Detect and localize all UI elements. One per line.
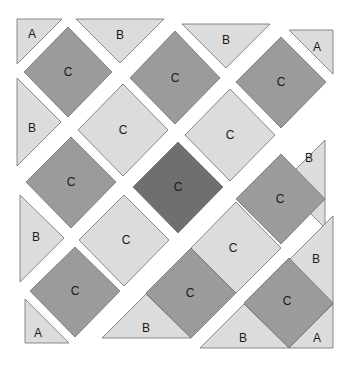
piece-label: C bbox=[64, 65, 73, 79]
piece-label: B bbox=[305, 151, 313, 165]
piece-label: B bbox=[239, 331, 247, 345]
piece-label: C bbox=[67, 175, 76, 189]
piece-label: B bbox=[28, 121, 36, 135]
piece-label: C bbox=[119, 123, 128, 137]
piece-label: C bbox=[122, 233, 131, 247]
piece-label: C bbox=[277, 75, 286, 89]
piece-label: B bbox=[142, 321, 150, 335]
piece-label: A bbox=[313, 331, 321, 345]
piece-label: C bbox=[276, 192, 285, 206]
piece-label: C bbox=[226, 128, 235, 142]
piece-label: B bbox=[116, 28, 124, 42]
piece-label: A bbox=[28, 27, 36, 41]
quilt-diagram: ABBACCCBCCBCCCBCCCACBBCBA bbox=[0, 0, 347, 366]
piece-label: C bbox=[174, 180, 183, 194]
piece-label: C bbox=[229, 241, 238, 255]
piece-label: A bbox=[313, 40, 321, 54]
piece-label: A bbox=[34, 326, 42, 340]
piece-label: C bbox=[71, 284, 80, 298]
piece-label: C bbox=[283, 294, 292, 308]
piece-label: B bbox=[312, 252, 320, 266]
piece-label: B bbox=[32, 230, 40, 244]
piece-label: B bbox=[222, 33, 230, 47]
piece-label: C bbox=[171, 71, 180, 85]
piece-label: C bbox=[186, 286, 195, 300]
